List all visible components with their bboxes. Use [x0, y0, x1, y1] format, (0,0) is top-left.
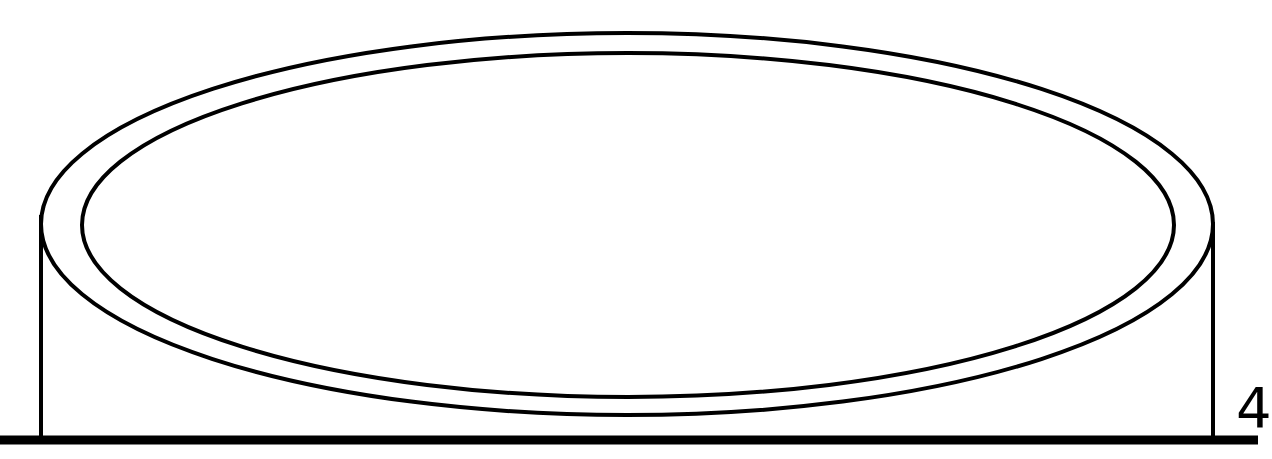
- outer-rim-ellipse: [41, 33, 1213, 415]
- reference-label: 4: [1236, 380, 1272, 436]
- inner-rim-ellipse: [82, 53, 1174, 397]
